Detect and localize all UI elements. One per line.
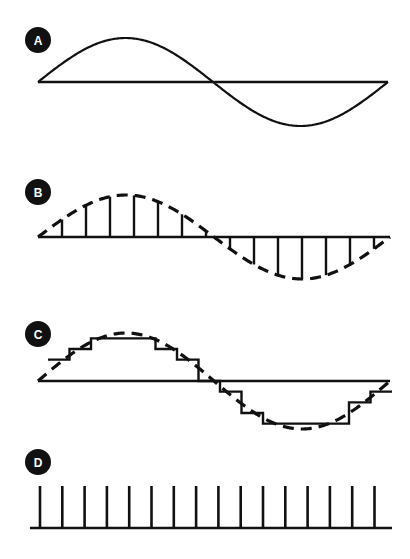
clock-pulse-group bbox=[40, 486, 375, 528]
badge-letter-a: A bbox=[34, 34, 43, 48]
figure-root: ABCD bbox=[0, 0, 410, 559]
badge-letter-d: D bbox=[34, 456, 43, 470]
waveform-figure-canvas: ABCD bbox=[0, 0, 410, 559]
panel-c: C bbox=[25, 321, 392, 429]
panel-label-badge-d: D bbox=[25, 449, 51, 475]
panel-label-badge-b: B bbox=[25, 179, 51, 205]
panel-b: B bbox=[25, 179, 390, 279]
panel-label-badge-a: A bbox=[25, 27, 51, 53]
panel-label-badge-c: C bbox=[25, 321, 51, 347]
panel-a: A bbox=[25, 27, 388, 126]
badge-letter-b: B bbox=[34, 186, 43, 200]
badge-letter-c: C bbox=[34, 328, 43, 342]
panel-d: D bbox=[25, 449, 392, 528]
